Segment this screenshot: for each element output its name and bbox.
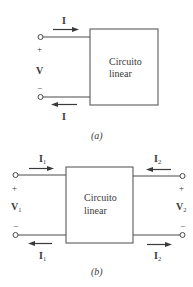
minus-sign-a: − <box>37 83 42 93</box>
arrow-right-icon <box>53 27 79 32</box>
arrow-right-icon <box>29 166 54 171</box>
left-bottom-terminal-b <box>13 233 18 238</box>
current-label-bottom-a: I <box>62 111 66 122</box>
box-label-line1-b: Circuito <box>84 192 117 203</box>
circuit-diagrams: Circuito linear I I + V − (a) Circuito l <box>0 0 193 287</box>
arrow-left-icon <box>51 102 77 107</box>
left-top-terminal-b <box>13 173 18 178</box>
current-label-i1-top: I1 <box>39 153 46 165</box>
plus-sign-left-b: + <box>12 183 17 193</box>
top-terminal-a <box>38 35 43 40</box>
figure-b: Circuito linear I1 I2 I1 <box>11 153 186 278</box>
figure-a: Circuito linear I I + V − (a) <box>36 15 158 142</box>
arrow-right-icon <box>147 242 172 247</box>
voltage-label-v1: V1 <box>11 201 21 213</box>
right-bottom-terminal-b <box>180 233 185 238</box>
plus-sign-a: + <box>37 44 42 54</box>
box-label-line1-a: Circuito <box>109 56 142 67</box>
plus-sign-right-b: + <box>179 183 184 193</box>
current-label-i1-bottom: I1 <box>39 250 46 262</box>
voltage-label-v2: V2 <box>176 201 186 213</box>
right-top-terminal-b <box>180 174 185 179</box>
current-label-i2-bottom: I2 <box>154 250 161 262</box>
arrow-left-icon <box>28 241 52 246</box>
current-label-i2-top: I2 <box>154 153 161 165</box>
voltage-label-a: V <box>36 65 44 76</box>
box-label-line2-b: linear <box>84 205 107 216</box>
bottom-terminal-a <box>38 95 43 100</box>
caption-a: (a) <box>91 130 103 142</box>
box-label-line2-a: linear <box>109 68 132 79</box>
linear-circuit-box-a <box>90 29 158 105</box>
caption-b: (b) <box>91 266 103 278</box>
minus-sign-left-b: − <box>13 221 18 231</box>
arrow-left-icon <box>146 167 171 172</box>
current-label-top-a: I <box>62 15 66 26</box>
minus-sign-right-b: − <box>180 221 185 231</box>
